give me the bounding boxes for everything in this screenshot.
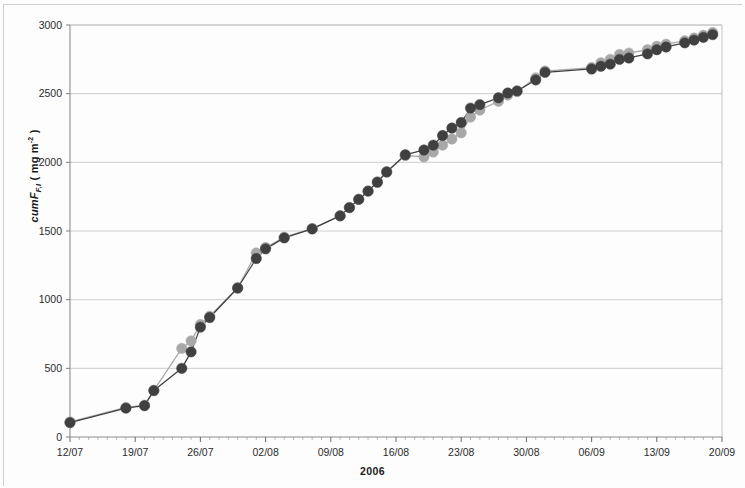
svg-text:09/08: 09/08: [318, 446, 344, 458]
y-axis-title-sub: F,I: [34, 184, 43, 193]
svg-text:30/08: 30/08: [513, 446, 539, 458]
svg-text:500: 500: [44, 362, 62, 374]
y-tick-labels: 050010001500200025003000: [39, 19, 70, 443]
x-axis-title: 2006: [0, 465, 745, 477]
y-axis-unit-close: ): [28, 129, 40, 136]
series-light-line: [70, 33, 713, 422]
svg-text:12/07: 12/07: [57, 446, 83, 458]
y-axis-unit-open: ( mg m: [28, 143, 40, 184]
svg-text:19/07: 19/07: [122, 446, 148, 458]
series-light-markers: [65, 27, 718, 427]
line-chart-svg: 050010001500200025003000 12/0719/0726/07…: [0, 0, 745, 488]
svg-text:02/08: 02/08: [252, 446, 278, 458]
svg-text:06/09: 06/09: [578, 446, 604, 458]
gridlines: [70, 25, 722, 368]
svg-text:16/08: 16/08: [383, 446, 409, 458]
svg-text:13/09: 13/09: [644, 446, 670, 458]
svg-text:3000: 3000: [39, 19, 63, 31]
x-tick-labels: 12/0719/0726/0702/0809/0816/0823/0830/08…: [57, 446, 735, 458]
chart-figure: 050010001500200025003000 12/0719/0726/07…: [0, 0, 745, 488]
y-axis-unit-sup: -2: [27, 137, 34, 144]
svg-text:26/07: 26/07: [187, 446, 213, 458]
svg-text:20/09: 20/09: [709, 446, 735, 458]
x-ticks: [70, 437, 722, 442]
y-axis-title: cumFF,I ( mg m-2 ): [27, 81, 43, 271]
svg-text:1000: 1000: [39, 293, 63, 305]
y-axis-title-main: cumF: [28, 192, 40, 222]
series-dark-line: [70, 35, 713, 423]
svg-text:23/08: 23/08: [448, 446, 474, 458]
svg-text:0: 0: [56, 431, 62, 443]
